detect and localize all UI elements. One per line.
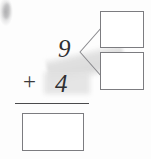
scan-smudge-icon	[0, 0, 13, 26]
worksheet-page: 9 + 4	[0, 0, 151, 159]
horizontal-rule-icon	[15, 103, 89, 104]
plus-operator: +	[23, 70, 36, 93]
decomposition-part-b-box[interactable]	[100, 52, 144, 90]
addend-top: 9	[58, 36, 71, 61]
addend-bottom: 4	[55, 71, 68, 96]
sum-answer-box[interactable]	[22, 113, 84, 151]
scan-smudge-core-icon	[3, 3, 10, 19]
decomposition-part-a-box[interactable]	[100, 11, 144, 48]
